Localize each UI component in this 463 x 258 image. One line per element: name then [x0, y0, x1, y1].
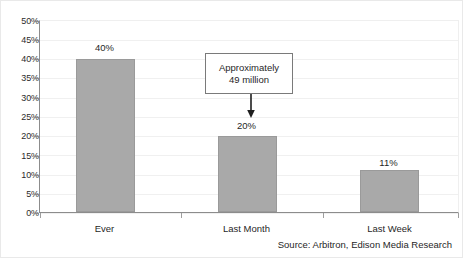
bar-value-last-month: 20% — [217, 121, 276, 131]
approximately-49-million-callout: Approximately 49 million — [205, 53, 293, 94]
bar-last-month — [218, 136, 277, 212]
callout-line-2: 49 million — [229, 74, 269, 86]
x-tick-mark — [323, 213, 324, 218]
y-tick-label: 30% — [5, 94, 39, 103]
gridline — [40, 40, 458, 41]
x-tick-mark — [181, 213, 182, 218]
y-tick-mark — [35, 213, 39, 214]
x-tick-mark — [40, 213, 41, 218]
y-tick-label: 50% — [5, 17, 39, 26]
y-tick-label: 35% — [5, 74, 39, 83]
y-tick-label: 40% — [5, 55, 39, 64]
callout-line-1: Approximately — [219, 62, 279, 74]
bar-ever — [76, 59, 135, 212]
y-tick-label: 20% — [5, 132, 39, 141]
x-tick-mark — [458, 213, 459, 218]
y-tick-label: 10% — [5, 171, 39, 180]
bar-last-week — [360, 170, 419, 212]
source-note: Source: Arbitron, Edison Media Research — [1, 239, 452, 250]
bar-value-last-week: 11% — [359, 158, 418, 168]
y-tick-label: 15% — [5, 152, 39, 161]
callout-down-arrow-icon — [246, 94, 256, 118]
y-tick-label: 45% — [5, 36, 39, 45]
x-category-label-ever: Ever — [75, 223, 134, 234]
y-axis: 50% 45% 40% 35% 30% 25% 20% 15% 10% 5% 0… — [1, 1, 39, 258]
gridline — [40, 213, 458, 214]
x-category-label-last-month: Last Month — [207, 223, 286, 234]
bar-value-ever: 40% — [75, 43, 134, 53]
y-tick-label: 0% — [5, 209, 39, 218]
x-category-label-last-week: Last Week — [350, 223, 429, 234]
y-tick-label: 5% — [5, 190, 39, 199]
y-tick-label: 25% — [5, 113, 39, 122]
bar-chart-figure: 50% 45% 40% 35% 30% 25% 20% 15% 10% 5% 0… — [0, 0, 463, 258]
